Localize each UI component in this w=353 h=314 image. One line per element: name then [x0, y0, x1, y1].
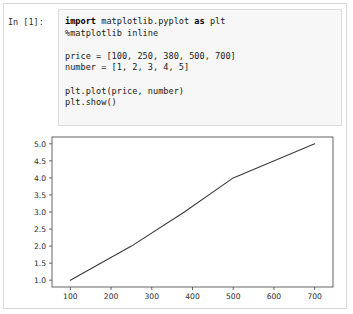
input-prompt-label: In [1]: [8, 17, 56, 27]
plot-output-area: 1.01.52.02.53.03.54.04.55.01002003004005… [8, 130, 342, 306]
code-token: as [194, 16, 204, 26]
y-tick-label: 4.0 [34, 174, 46, 183]
code-token: plt [205, 16, 226, 26]
x-tick-label: 700 [307, 292, 322, 301]
y-tick-label: 4.5 [34, 157, 46, 166]
x-tick-label: 600 [267, 292, 282, 301]
matplotlib-line-chart: 1.01.52.02.53.03.54.04.55.01002003004005… [8, 130, 342, 306]
y-tick-label: 1.0 [34, 276, 46, 285]
code-cell[interactable]: In [1]: import matplotlib.pyplot as plt … [8, 9, 342, 126]
y-tick-label: 3.5 [34, 191, 46, 200]
code-token: plt.show() [65, 97, 117, 107]
code-text: import matplotlib.pyplot as plt %matplot… [65, 16, 337, 109]
code-token: import [65, 16, 96, 26]
x-tick-label: 500 [226, 292, 241, 301]
y-tick-label: 1.5 [34, 259, 46, 268]
code-token: matplotlib.pyplot [96, 16, 194, 26]
code-token: %matplotlib inline [65, 28, 158, 38]
code-token: plt.plot(price, number) [65, 86, 184, 96]
y-tick-label: 2.0 [34, 242, 46, 251]
code-editor-area[interactable]: import matplotlib.pyplot as plt %matplot… [58, 9, 342, 126]
axes-frame [52, 137, 333, 287]
x-tick-label: 300 [145, 292, 160, 301]
y-tick-label: 5.0 [34, 140, 46, 149]
notebook-container: In [1]: import matplotlib.pyplot as plt … [3, 3, 347, 309]
y-tick-label: 3.0 [34, 208, 46, 217]
x-tick-label: 400 [185, 292, 200, 301]
x-tick-label: 100 [63, 292, 78, 301]
y-tick-label: 2.5 [34, 225, 46, 234]
code-token: price = [100, 250, 380, 500, 700] [65, 51, 236, 61]
code-token: number = [1, 2, 3, 4, 5] [65, 62, 189, 72]
x-tick-label: 200 [104, 292, 119, 301]
